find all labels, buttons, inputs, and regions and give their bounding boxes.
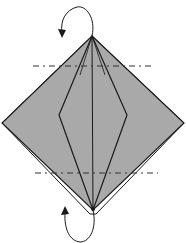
diagram-canvas [0, 0, 186, 243]
bottom-apex [91, 207, 95, 211]
origami-diagram [0, 0, 186, 243]
fold-behind-arrow-top-icon [58, 7, 93, 38]
